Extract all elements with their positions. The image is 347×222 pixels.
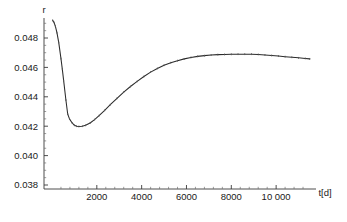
x-tick-label: 6000: [176, 191, 197, 202]
y-tick-label: 0.040: [14, 150, 38, 161]
x-tick-label: 8000: [221, 191, 242, 202]
y-tick-label: 0.042: [14, 121, 38, 132]
y-axis-group: 0.0380.0400.0420.0440.0460.048 r: [14, 4, 48, 190]
rate-curve-plot: 0.0380.0400.0420.0440.0460.048 r 2000400…: [0, 0, 347, 222]
y-tick-label: 0.044: [14, 91, 38, 102]
y-axis-tick-labels: 0.0380.0400.0420.0440.0460.048: [14, 32, 38, 190]
x-axis-group: 200040006000800010 000 t[d]: [44, 185, 332, 202]
x-axis-tick-labels: 200040006000800010 000: [86, 191, 290, 202]
series-group: [52, 19, 310, 127]
data-series-line: [53, 20, 310, 126]
x-tick-label: 10 000: [262, 191, 291, 202]
x-axis-title: t[d]: [318, 187, 331, 198]
x-tick-label: 2000: [86, 191, 107, 202]
data-series-points: [52, 19, 310, 127]
y-tick-label: 0.046: [14, 62, 38, 73]
y-tick-label: 0.048: [14, 32, 38, 43]
y-tick-label: 0.038: [14, 179, 38, 190]
chart-figure: 0.0380.0400.0420.0440.0460.048 r 2000400…: [0, 0, 347, 222]
x-tick-label: 4000: [131, 191, 152, 202]
y-axis-title: r: [42, 4, 45, 15]
